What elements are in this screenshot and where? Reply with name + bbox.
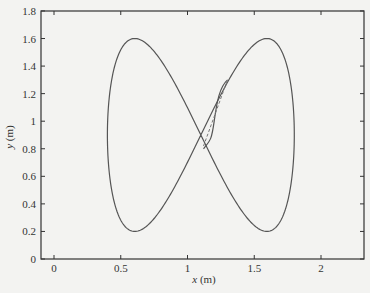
y-tick-label: 1 — [31, 115, 37, 127]
x-tick-label: 1.5 — [247, 262, 261, 274]
y-tick-label: 1.2 — [22, 88, 36, 100]
x-tick-label: 2 — [318, 262, 324, 274]
chart: 00.511.5200.20.40.60.811.21.41.61.8 x (m… — [0, 0, 370, 293]
x-tick-label: 0.5 — [114, 262, 128, 274]
y-tick-label: 0.4 — [22, 198, 36, 210]
y-tick-label: 1.8 — [22, 5, 36, 17]
y-tick-label: 0.8 — [22, 143, 36, 155]
actual-trajectory — [204, 80, 228, 149]
plot-curves — [107, 39, 294, 232]
plot-frame — [41, 11, 364, 259]
reference-trajectory — [107, 39, 294, 232]
y-tick-label: 0 — [31, 253, 37, 265]
y-tick-label: 1.4 — [22, 60, 36, 72]
x-axis-label: x (m) — [191, 273, 216, 286]
y-axis-label: y (m) — [3, 125, 16, 150]
x-tick-label: 1 — [185, 262, 191, 274]
y-tick-label: 0.6 — [22, 170, 36, 182]
axis-ticks: 00.511.5200.20.40.60.811.21.41.61.8 — [22, 5, 364, 274]
x-tick-label: 0 — [51, 262, 57, 274]
y-tick-label: 1.6 — [22, 33, 36, 45]
y-tick-label: 0.2 — [22, 225, 36, 237]
